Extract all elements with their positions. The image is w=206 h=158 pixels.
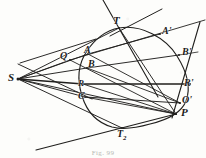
ray-S-R-Rprime-axis <box>18 79 190 84</box>
point-label-A: A <box>84 45 91 55</box>
point-label-Bprime: B' <box>182 47 191 57</box>
figure-caption: Fig. 99 <box>0 149 206 157</box>
point-label-Oprime: O' <box>182 95 192 105</box>
point-dot-S <box>17 78 20 81</box>
point-label-Q: Q <box>60 51 67 61</box>
tangent-line-through-T2 <box>36 114 176 150</box>
tangent-line-through-T <box>103 0 158 97</box>
subscript-2: 2 <box>123 134 126 141</box>
geometry-diagram <box>0 0 206 158</box>
point-dot-Aprime <box>159 33 161 35</box>
point-label-Aprime: A' <box>162 26 171 36</box>
point-label-Rprime: R' <box>184 78 193 88</box>
point-label-P: P <box>181 107 188 118</box>
point-dot-Oprime <box>179 102 181 104</box>
point-label-T: T <box>113 15 120 26</box>
point-label-R: R <box>78 79 84 88</box>
point-label-S: S <box>8 72 14 83</box>
ray-S-Q-extended <box>18 20 205 79</box>
figure-container: S Q A B R C T T2 A' B' R' O' P Fig. 99 <box>0 0 206 158</box>
ray-S-T2 <box>18 79 122 128</box>
point-label-T2: T2 <box>117 129 127 142</box>
point-label-C: C <box>78 91 85 101</box>
point-dot-P <box>175 113 177 115</box>
point-dot-Q <box>69 59 71 61</box>
point-dot-Bprime <box>178 54 180 56</box>
point-dot-T <box>118 27 120 29</box>
point-label-B: B <box>88 59 95 69</box>
